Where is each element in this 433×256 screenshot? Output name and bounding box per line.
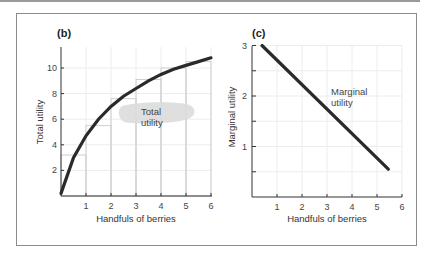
chart-total-utility: 123456246810 (b) Total utility Handfuls … (34, 27, 214, 224)
annotation-line2: utility (141, 117, 163, 128)
x-tick-label: 6 (399, 202, 404, 212)
annotation-line1: Marginal (331, 86, 367, 97)
x-tick-label: 2 (299, 202, 304, 212)
y-tick-label: 6 (52, 114, 57, 124)
x-tick-label: 1 (83, 201, 88, 211)
panel-label: (c) (252, 27, 266, 39)
ticks: 123456246810 (47, 63, 214, 211)
x-tick-label: 5 (374, 202, 379, 212)
panel-label: (b) (57, 27, 71, 39)
marginal-utility-line (262, 46, 388, 170)
figure-canvas: 123456246810 (b) Total utility Handfuls … (0, 0, 433, 256)
y-tick-label: 10 (47, 63, 57, 73)
y-tick-label: 3 (242, 41, 247, 51)
x-axis-title: Handfuls of berries (287, 213, 367, 224)
x-tick-label: 6 (208, 201, 213, 211)
x-tick-label: 3 (133, 201, 138, 211)
y-tick-label: 2 (52, 165, 57, 175)
y-axis-title: Total utility (34, 100, 45, 145)
x-tick-label: 4 (349, 202, 354, 212)
x-tick-label: 3 (324, 202, 329, 212)
x-tick-label: 5 (183, 201, 188, 211)
ticks: 123456123 (242, 41, 405, 213)
y-axis-title: Marginal utility (226, 86, 237, 147)
x-tick-label: 4 (158, 201, 163, 211)
annotation-line1: Total (141, 106, 161, 117)
x-tick-label: 1 (274, 202, 279, 212)
grid (252, 46, 402, 198)
annotation-line2: utility (331, 97, 353, 108)
y-tick-label: 8 (52, 89, 57, 99)
chart-marginal-utility: 123456123 (c) Marginal utility Handfuls … (226, 27, 405, 224)
step-boxes (61, 62, 211, 196)
y-tick-label: 2 (242, 91, 247, 101)
y-tick-label: 4 (52, 140, 57, 150)
x-axis-title: Handfuls of berries (96, 213, 176, 224)
y-tick-label: 1 (242, 142, 247, 152)
x-tick-label: 2 (108, 201, 113, 211)
